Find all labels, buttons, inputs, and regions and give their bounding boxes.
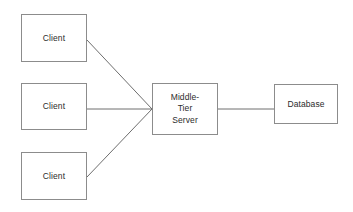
node-label-middle-tier-server: Middle- Tier Server xyxy=(171,92,200,127)
connector-client-top-to-server xyxy=(87,40,152,109)
node-client-bottom: Client xyxy=(21,152,87,200)
node-client-middle: Client xyxy=(21,83,87,130)
node-client-top: Client xyxy=(21,14,87,62)
node-label-database: Database xyxy=(287,99,324,110)
connector-client-bottom-to-server xyxy=(87,109,152,177)
node-middle-tier-server: Middle- Tier Server xyxy=(152,83,218,135)
node-label-client-top: Client xyxy=(43,33,65,44)
node-label-client-middle: Client xyxy=(43,101,65,112)
node-database: Database xyxy=(274,84,338,124)
diagram-canvas: Client Client Client Middle- Tier Server… xyxy=(0,0,353,212)
node-label-client-bottom: Client xyxy=(43,171,65,182)
